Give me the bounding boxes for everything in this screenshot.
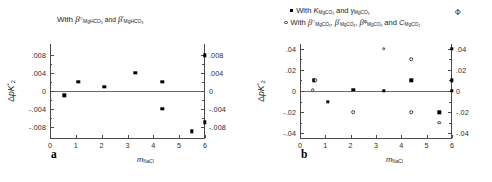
data-point	[314, 79, 318, 83]
x-tick-label: 2	[341, 141, 361, 150]
panel-a-title: With β○MgHCO3 and β'MgHCO3	[57, 14, 143, 25]
panel-b: With KMgCO3 and γMgCO3 With β○MgCO3, β'M…	[246, 0, 492, 182]
x-tick	[179, 135, 180, 139]
data-point	[77, 80, 80, 83]
y-tick-label-right: -.02	[456, 108, 482, 117]
data-point	[161, 107, 164, 110]
y-tick-minor	[300, 123, 302, 124]
data-point	[63, 94, 66, 97]
zero-reference-line	[50, 91, 205, 92]
y-tick-label-right: .04	[456, 45, 482, 54]
x-tick	[50, 135, 51, 139]
x-tick-label: 1	[315, 141, 335, 150]
x-axis	[50, 138, 205, 139]
panel-a: With β○MgHCO3 and β'MgHCO3 ΔpK*2 -.008-.…	[0, 0, 246, 182]
y-tick-label-right: .02	[456, 66, 482, 75]
legend-marker-open-circle	[284, 21, 288, 25]
legend-marker-filled-square	[290, 9, 293, 12]
y-tick-minor	[50, 64, 52, 65]
x-tick-label: 5	[417, 141, 437, 150]
x-tick	[153, 135, 154, 139]
x-tick	[300, 135, 301, 139]
x-tick	[351, 135, 352, 139]
y-tick-label-left: .004	[20, 69, 46, 78]
y-tick-major	[448, 112, 452, 113]
x-tick	[401, 135, 402, 139]
y-tick-label-right: 0	[209, 87, 235, 96]
y-tick-major	[300, 91, 304, 92]
data-point	[382, 47, 386, 51]
panel-b-x-axis-label: mNaCl	[386, 155, 403, 164]
y-tick-label-right: -.008	[209, 123, 235, 132]
x-tick-label: 3	[118, 141, 138, 150]
y-tick-minor	[300, 59, 302, 60]
panel-b-legend-entry-1: With KMgCO3 and γMgCO3	[290, 5, 369, 16]
y-tick-major	[448, 133, 452, 134]
data-point	[438, 110, 441, 113]
y-tick-major	[50, 109, 54, 110]
y-tick-label-right: -.004	[209, 105, 235, 114]
legend-label-1: With KMgCO3 and γMgCO3	[296, 5, 369, 16]
y-tick-label-left: -.008	[20, 123, 46, 132]
data-point	[351, 88, 354, 91]
y-tick-label-right: .004	[209, 69, 235, 78]
x-tick	[427, 135, 428, 139]
x-tick-label: 3	[366, 141, 386, 150]
zero-reference-line	[300, 91, 452, 92]
x-tick	[452, 135, 453, 139]
y-tick-major	[448, 70, 452, 71]
y-tick-label-left: 0	[270, 87, 296, 96]
x-tick-label: 6	[195, 141, 215, 150]
y-tick-minor	[202, 82, 204, 83]
y-tick-major	[50, 73, 54, 74]
data-point	[438, 121, 442, 125]
data-point	[161, 80, 164, 83]
data-point	[103, 85, 106, 88]
panel-a-letter: a	[51, 148, 57, 160]
y-tick-minor	[202, 118, 204, 119]
y-tick-label-left: -.02	[270, 108, 296, 117]
x-tick-label: 6	[442, 141, 462, 150]
panel-a-y-axis-label: ΔpK*2	[6, 71, 16, 111]
data-point	[450, 89, 453, 92]
y-tick-major	[50, 127, 54, 128]
data-point	[311, 88, 315, 92]
y-tick-minor	[449, 59, 451, 60]
y-tick-minor	[300, 80, 302, 81]
data-point	[410, 79, 413, 82]
y-tick-minor	[50, 118, 52, 119]
data-point	[410, 110, 414, 114]
data-point	[351, 110, 355, 114]
y-tick-label-right: -.04	[456, 129, 482, 138]
y-tick-label-left: .008	[20, 51, 46, 60]
data-point	[190, 130, 193, 133]
y-tick-minor	[300, 102, 302, 103]
y-tick-minor	[449, 102, 451, 103]
figure-two-panel-scatter: With β○MgHCO3 and β'MgHCO3 ΔpK*2 -.008-.…	[0, 0, 492, 182]
x-tick-label: 5	[169, 141, 189, 150]
data-point	[450, 79, 453, 82]
y-tick-major	[300, 49, 304, 50]
y-tick-major	[201, 127, 205, 128]
y-tick-major	[50, 55, 54, 56]
data-point	[203, 121, 206, 124]
y-tick-minor	[449, 123, 451, 124]
y-tick-label-left: -.04	[270, 129, 296, 138]
data-point	[410, 58, 414, 62]
y-tick-label-left: .02	[270, 66, 296, 75]
panel-a-x-axis-label: mNaCl	[137, 155, 154, 164]
data-point	[326, 100, 329, 103]
data-point	[382, 89, 385, 92]
y-tick-major	[300, 70, 304, 71]
y-tick-label-left: .04	[270, 45, 296, 54]
panel-b-legend-entry-2: With β○MgCO3, β'MgCO3, βφMgCO3 and CMgCO…	[284, 17, 420, 28]
data-point	[134, 71, 137, 74]
x-tick-label: 1	[66, 141, 86, 150]
x-tick-label: 4	[391, 141, 411, 150]
data-point	[450, 47, 453, 50]
y-tick-minor	[202, 100, 204, 101]
y-tick-major	[50, 91, 54, 92]
panel-b-phi-superscript: Φ	[455, 8, 461, 17]
x-tick	[76, 135, 77, 139]
x-tick	[205, 135, 206, 139]
